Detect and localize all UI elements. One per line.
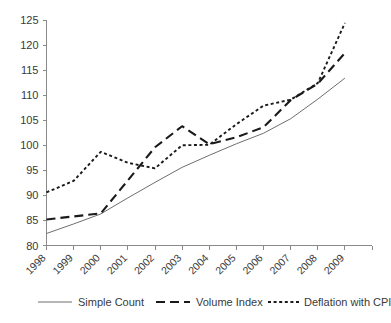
x-tick-label: 2003 — [159, 251, 184, 276]
x-tick-label: 2004 — [186, 251, 211, 276]
y-tick-label: 95 — [26, 164, 38, 176]
series-line-deflation-with-cpi — [47, 23, 345, 192]
y-tick-label-group: 80859095100105110115120125 — [20, 14, 38, 252]
x-tick-label: 2009 — [321, 251, 346, 276]
x-tick-label: 2007 — [267, 251, 292, 276]
y-tick-label: 85 — [26, 214, 38, 226]
legend-label-volume-index: Volume Index — [196, 296, 263, 308]
y-tick-label: 115 — [21, 64, 39, 76]
y-tick-label: 90 — [26, 189, 38, 201]
legend-item-deflation-with-cpi[interactable]: Deflation with CPI — [268, 296, 391, 308]
series-line-simple-count — [47, 78, 345, 233]
y-tick-label: 100 — [20, 139, 38, 151]
x-tick-label: 2001 — [104, 251, 129, 276]
y-tick-label: 125 — [20, 14, 38, 26]
x-tick-label: 2002 — [131, 251, 156, 276]
series-line-volume-index — [47, 53, 345, 219]
legend-item-volume-index[interactable]: Volume Index — [156, 296, 263, 308]
legend-label-simple-count: Simple Count — [78, 296, 144, 308]
legend-item-simple-count[interactable]: Simple Count — [38, 296, 144, 308]
x-tick-label: 2000 — [77, 251, 102, 276]
y-axis: 80859095100105110115120125 — [20, 14, 46, 252]
chart-svg: 80859095100105110115120125 1998199920002… — [0, 0, 391, 323]
x-tick-label: 1998 — [23, 251, 48, 276]
x-tick-label-group: 1998199920002001200220032004200520062007… — [23, 251, 346, 276]
x-tick-label: 1999 — [50, 251, 75, 276]
x-tick-label: 2008 — [294, 251, 319, 276]
x-axis: 1998199920002001200220032004200520062007… — [23, 246, 372, 277]
legend: Simple Count Volume Index Deflation with… — [38, 296, 391, 308]
plot-series-group — [47, 23, 345, 233]
legend-label-deflation-with-cpi: Deflation with CPI — [304, 296, 391, 308]
y-tick-label: 110 — [21, 89, 39, 101]
y-tick-label: 105 — [20, 114, 38, 126]
y-tick-label: 80 — [26, 240, 38, 252]
x-tick-label: 2006 — [240, 251, 265, 276]
x-tick-label: 2005 — [213, 251, 238, 276]
y-tick-group — [43, 20, 47, 246]
x-tick-group — [47, 246, 373, 250]
line-chart: 80859095100105110115120125 1998199920002… — [0, 0, 391, 323]
y-tick-label: 120 — [20, 39, 38, 51]
